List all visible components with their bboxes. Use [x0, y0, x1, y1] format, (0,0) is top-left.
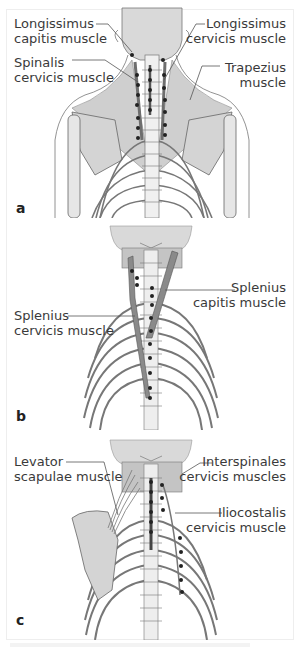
label-longissimus-capitis: Longissimus capitis muscle [14, 16, 107, 46]
panel-c: Levator scapulae muscle Interspinales ce… [0, 430, 305, 640]
label-trapezius: Trapezius muscle [225, 60, 286, 90]
panel-a: Longissimus capitis muscle Spinalis cerv… [0, 0, 305, 218]
caption-strip [10, 643, 250, 647]
label-iliocostalis-cervicis: Iliocostalis cervicis muscle [186, 505, 286, 535]
label-spinalis-cervicis: Spinalis cervicis muscle [14, 55, 114, 85]
label-splenius-cervicis: Splenius cervicis muscle [14, 308, 114, 338]
label-splenius-capitis: Splenius capitis muscle [193, 280, 286, 310]
label-levator-scapulae: Levator scapulae muscle [14, 454, 123, 484]
panel-b: Splenius capitis muscle Splenius cervici… [0, 218, 305, 430]
label-interspinales-cervicis: Interspinales cervicis muscles [179, 454, 286, 484]
panel-letter-b: b [16, 408, 26, 424]
label-longissimus-cervicis: Longissimus cervicis muscle [186, 16, 286, 46]
panel-letter-c: c [16, 612, 24, 628]
panel-letter-a: a [16, 200, 25, 216]
